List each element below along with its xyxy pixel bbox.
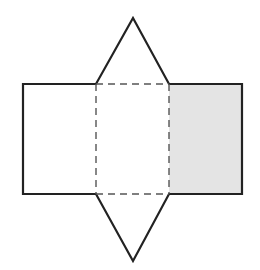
right-rectangle-face-shaded — [169, 84, 242, 194]
prism-net-diagram — [0, 0, 260, 270]
fold-lines-dashed — [96, 84, 169, 194]
